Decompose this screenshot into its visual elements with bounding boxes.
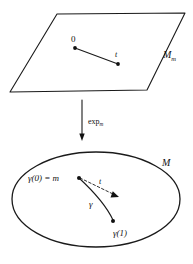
tangent-vector-endpoint-dot (116, 62, 120, 66)
exp-map-arrow-head (79, 134, 84, 142)
manifold-tangent-vector-arrowhead (111, 191, 120, 197)
figure-canvas: 0 t Mm expm γ(0) = m t γ γ(1) M (0, 0, 193, 264)
manifold-label: M (161, 157, 171, 168)
tangent-vector-segment (75, 48, 118, 64)
geodesic-curve-label: γ (89, 199, 93, 209)
tangent-space-label-sub: m (171, 55, 176, 62)
exp-map-label: expm (88, 117, 104, 127)
geodesic-curve (79, 178, 113, 220)
exp-map-label-sub: m (100, 121, 104, 127)
exponential-map-diagram: 0 t Mm expm γ(0) = m t γ γ(1) M (0, 0, 193, 264)
manifold-tangent-vector-dashed (80, 178, 113, 194)
origin-point-dot (73, 46, 77, 50)
origin-label: 0 (71, 34, 76, 44)
manifold-ellipse (12, 152, 180, 247)
gamma-start-label: γ(0) = m (28, 173, 60, 183)
gamma-end-dot (111, 219, 115, 223)
manifold-tangent-vector-label: t (99, 177, 102, 186)
tangent-vector-label: t (115, 50, 118, 59)
tangent-space-parallelogram (10, 13, 185, 92)
gamma-start-dot (77, 176, 81, 180)
tangent-space-label: Mm (162, 49, 176, 62)
exp-map-label-main: exp (88, 117, 100, 126)
gamma-end-label: γ(1) (113, 228, 127, 238)
